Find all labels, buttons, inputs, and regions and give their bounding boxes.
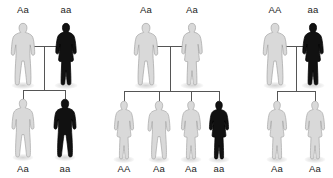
genotype-label: Aa bbox=[271, 164, 283, 174]
genotype-label: Aa bbox=[186, 5, 198, 15]
person-figure-female-aa bbox=[303, 100, 328, 160]
person-figure-female-aa bbox=[265, 100, 290, 160]
genotype-label: aa bbox=[308, 5, 319, 15]
genotype-label: Aa bbox=[309, 164, 321, 174]
sibship-line-cross-1 bbox=[23, 90, 66, 91]
descent-line-cross-2 bbox=[170, 46, 171, 92]
sibship-line-cross-3 bbox=[277, 91, 316, 92]
person-figure-female-aa bbox=[300, 22, 327, 86]
person-figure-male-aa bbox=[10, 22, 37, 86]
genotype-label: Aa bbox=[140, 5, 152, 15]
genotype-label: aa bbox=[61, 5, 72, 15]
person-figure-male-aa bbox=[133, 22, 160, 86]
genotype-label: aa bbox=[214, 164, 225, 174]
genotype-label: Aa bbox=[17, 164, 29, 174]
descent-line-cross-1 bbox=[44, 46, 45, 91]
person-figure-female-aa bbox=[179, 22, 206, 86]
genotype-label: Aa bbox=[153, 164, 165, 174]
genotype-label: AA bbox=[268, 5, 281, 15]
person-figure-male-aa bbox=[11, 98, 36, 158]
person-figure-male-aa bbox=[262, 22, 289, 86]
person-figure-female-aa bbox=[53, 22, 80, 86]
person-figure-male-aa bbox=[147, 100, 172, 160]
pedigree-diagram: AaaaAaaaAaAaAAAaAaaaAAaaAaAa bbox=[0, 0, 333, 178]
descent-line-cross-3 bbox=[296, 46, 297, 92]
person-figure-female-aa bbox=[207, 100, 232, 160]
person-figure-female-aa bbox=[112, 100, 137, 160]
genotype-label: AA bbox=[117, 164, 130, 174]
genotype-label: aa bbox=[60, 164, 71, 174]
person-figure-female-aa bbox=[179, 100, 204, 160]
genotype-label: Aa bbox=[185, 164, 197, 174]
person-figure-male-aa bbox=[53, 98, 78, 158]
sibship-line-cross-2 bbox=[124, 91, 220, 92]
genotype-label: Aa bbox=[17, 5, 29, 15]
